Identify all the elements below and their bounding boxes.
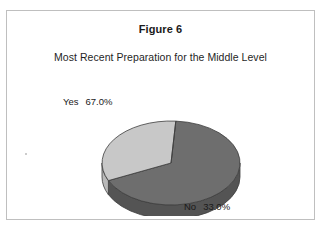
figure-frame: Figure 6 Most Recent Preparation for the… — [6, 10, 315, 220]
pie-chart-plot-area: Yes67.0% No33.0% — [7, 11, 316, 221]
page-speck — [25, 153, 27, 155]
pie-label-yes-name: Yes — [63, 96, 79, 107]
pie-label-yes: Yes67.0% — [63, 96, 112, 107]
pie-chart-3d — [87, 106, 257, 216]
pie-label-no-name: No — [184, 201, 196, 212]
pie-label-no: No33.0% — [184, 201, 230, 212]
pie-label-no-value: 33.0% — [203, 201, 230, 212]
pie-label-yes-value: 67.0% — [86, 96, 113, 107]
